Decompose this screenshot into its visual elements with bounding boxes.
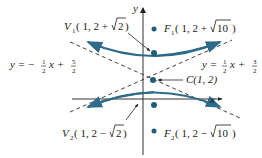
svg-text:): ) (232, 127, 236, 140)
hyperbola-diagram: y x V 1 ( 1, 2 + 2 ) F 1 ( 1, 2 + 10 ) y… (0, 0, 262, 158)
svg-text:): ) (125, 20, 129, 33)
center-label: C(1, 2) (186, 73, 218, 86)
svg-text:10: 10 (217, 22, 229, 34)
svg-text:F: F (163, 22, 171, 34)
svg-text:y = −: y = − (9, 58, 35, 70)
vertex-v2-point (151, 102, 157, 108)
svg-text:): ) (232, 22, 236, 35)
svg-text:2: 2 (72, 67, 76, 75)
svg-text:2: 2 (118, 20, 124, 32)
center-point (150, 77, 156, 83)
svg-text:( 1, 2 −: ( 1, 2 − (175, 127, 207, 140)
svg-text:( 1, 2 +: ( 1, 2 + (175, 22, 207, 35)
svg-text:3: 3 (253, 58, 257, 66)
focus-f1-point (152, 27, 157, 32)
vertex-v1-label: V 1 ( 1, 2 + 2 ) (64, 18, 129, 35)
svg-text:( 1, 2 −: ( 1, 2 − (74, 127, 106, 140)
svg-text:y =: y = (201, 58, 217, 70)
svg-text:1: 1 (223, 58, 227, 66)
svg-text:1: 1 (42, 58, 46, 66)
svg-text:V: V (64, 20, 72, 32)
svg-text:2: 2 (253, 67, 257, 75)
y-axis-label: y (132, 2, 138, 14)
v2-leader (126, 104, 138, 120)
asymptote-left-label: y = − 1 2 x + 5 2 (9, 58, 76, 75)
svg-text:10: 10 (217, 127, 229, 139)
svg-text:V: V (62, 127, 70, 139)
vertex-v1-point (151, 50, 157, 56)
svg-text:2: 2 (223, 67, 227, 75)
focus-f1-label: F 1 ( 1, 2 + 10 ) (163, 20, 236, 37)
svg-text:F: F (163, 127, 171, 139)
svg-text:2: 2 (116, 127, 122, 139)
svg-text:x +: x + (48, 58, 64, 70)
svg-text:5: 5 (72, 58, 76, 66)
focus-f2-point (152, 129, 157, 134)
x-axis-label: x (209, 93, 215, 105)
svg-text:): ) (123, 127, 127, 140)
svg-text:( 1, 2 +: ( 1, 2 + (76, 20, 108, 33)
v1-leader (128, 33, 150, 51)
vertex-v2-label: V 2 ( 1, 2 − 2 ) (62, 125, 127, 142)
focus-f2-label: F 2 ( 1, 2 − 10 ) (163, 125, 236, 142)
svg-text:2: 2 (42, 67, 46, 75)
svg-text:x +: x + (229, 58, 245, 70)
